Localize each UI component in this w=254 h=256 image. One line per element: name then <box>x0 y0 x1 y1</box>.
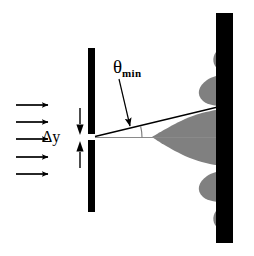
theta-min-label: θmin <box>113 57 141 79</box>
barrier-upper-segment <box>88 48 95 134</box>
detection-screen <box>216 13 233 243</box>
dy-arrow-up-head <box>76 141 83 152</box>
theta-symbol: θ <box>113 56 122 77</box>
theta-leader-line <box>119 79 130 126</box>
barrier-lower-segment <box>88 140 95 212</box>
diagram-canvas <box>0 0 254 256</box>
delta-y-label: Δy <box>42 129 60 145</box>
dy-arrow-down-head <box>76 125 83 136</box>
delta-y-dimension-arrows <box>76 108 83 168</box>
slit-barrier <box>88 48 95 212</box>
theta-angle-arc <box>141 126 142 137</box>
theta-subscript: min <box>122 67 141 79</box>
single-slit-diffraction-figure: θmin Δy <box>0 0 254 256</box>
